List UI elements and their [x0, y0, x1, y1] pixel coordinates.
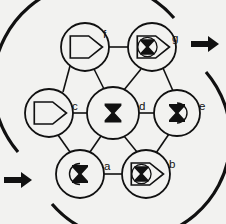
node-e-label: e: [199, 100, 205, 112]
node-b[interactable]: b: [122, 150, 175, 198]
node-g[interactable]: g: [128, 23, 178, 71]
edge-c-a: [58, 135, 70, 152]
figure-canvas: f g c: [0, 0, 226, 224]
node-f[interactable]: f: [61, 23, 109, 71]
edge-d-a: [90, 136, 101, 152]
node-d-label: d: [139, 100, 145, 112]
node-c-label: c: [72, 100, 78, 112]
node-d[interactable]: d: [87, 87, 145, 139]
arrow-bottom-left: [4, 172, 32, 188]
edge-d-b: [124, 136, 137, 152]
edge-f-c: [63, 66, 70, 92]
node-g-label: g: [172, 32, 178, 44]
arrow-top-right: [191, 36, 219, 52]
edge-g-d: [124, 69, 141, 90]
node-a-label: a: [104, 160, 111, 172]
node-a[interactable]: a: [56, 150, 111, 198]
node-b-label: b: [169, 158, 175, 170]
node-e[interactable]: e: [154, 90, 205, 136]
edge-g-e: [163, 68, 173, 91]
outer-right-arc: [52, 72, 226, 224]
node-c[interactable]: c: [25, 89, 78, 137]
edge-e-b: [156, 134, 169, 153]
edge-f-d: [94, 69, 104, 89]
